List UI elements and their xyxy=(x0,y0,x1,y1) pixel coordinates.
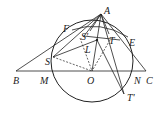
segment-s-prime-t xyxy=(84,36,120,40)
label-e: E xyxy=(128,37,135,48)
label-a: A xyxy=(103,5,111,16)
label-b: B xyxy=(13,75,19,86)
label-m: M xyxy=(39,75,49,86)
label-t: T xyxy=(109,35,116,46)
label-n: N xyxy=(133,75,142,86)
segment-so xyxy=(53,57,92,71)
point-l-dot xyxy=(96,39,98,41)
geometry-diagram: A F S' T E L S B M O N C T' xyxy=(0,0,165,124)
label-c: C xyxy=(146,75,153,86)
label-o: O xyxy=(87,75,94,86)
label-t-prime: T' xyxy=(127,92,136,103)
label-s: S xyxy=(45,56,50,67)
label-f: F xyxy=(62,23,70,34)
label-l: L xyxy=(84,44,91,55)
segment-lo xyxy=(92,40,97,71)
segment-ab xyxy=(16,14,101,71)
segment-ac xyxy=(101,14,146,71)
label-s-prime: S' xyxy=(81,31,89,42)
